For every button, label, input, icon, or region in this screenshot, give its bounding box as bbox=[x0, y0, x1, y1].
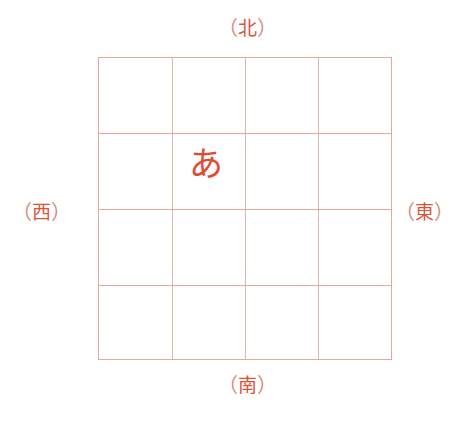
paren-open: （ bbox=[218, 16, 238, 40]
grid-hline bbox=[99, 285, 391, 286]
paren-close: ） bbox=[51, 200, 71, 224]
paren-close: ） bbox=[257, 373, 277, 397]
paren-close: ） bbox=[434, 200, 454, 224]
north-char: 北 bbox=[238, 17, 257, 39]
grid-hline bbox=[99, 133, 391, 134]
east-char: 東 bbox=[415, 201, 434, 223]
west-label: （西） bbox=[12, 202, 71, 222]
paren-open: （ bbox=[12, 200, 32, 224]
south-char: 南 bbox=[238, 374, 257, 396]
hiragana-a-character: あ bbox=[189, 147, 223, 181]
grid-hline bbox=[99, 209, 391, 210]
east-label: （東） bbox=[395, 202, 454, 222]
practice-grid bbox=[98, 57, 392, 360]
north-label: （北） bbox=[218, 18, 277, 38]
paren-open: （ bbox=[395, 200, 415, 224]
paren-open: （ bbox=[218, 373, 238, 397]
west-char: 西 bbox=[32, 201, 51, 223]
south-label: （南） bbox=[218, 375, 277, 395]
paren-close: ） bbox=[257, 16, 277, 40]
